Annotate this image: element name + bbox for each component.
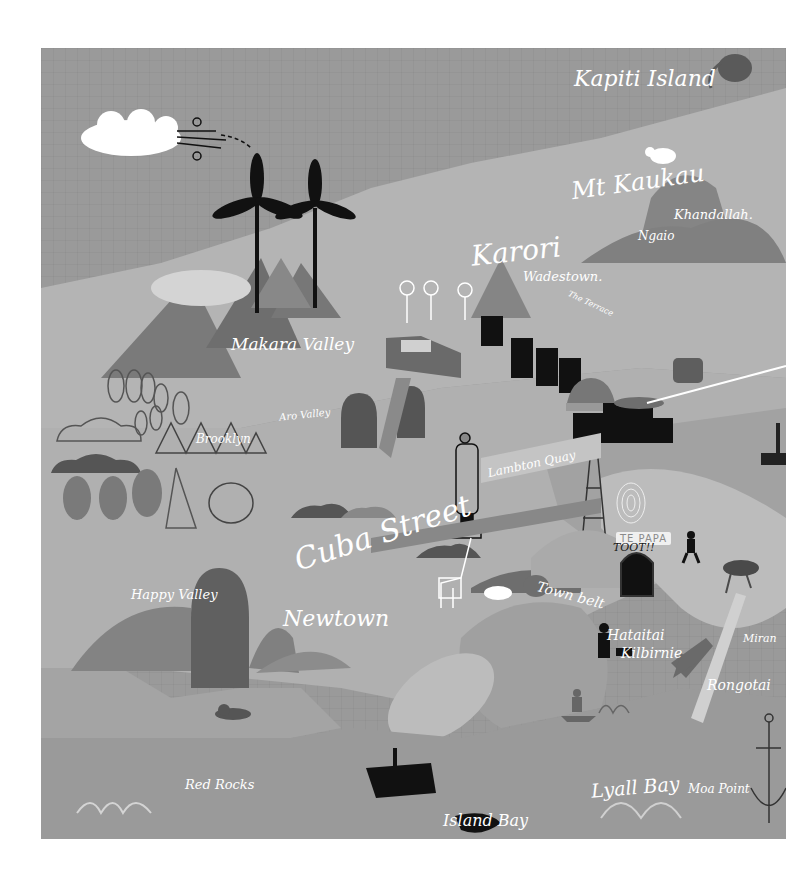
label-moa-point: Moa Point xyxy=(688,783,750,795)
kiwi-bird-icon xyxy=(710,54,752,88)
label-rongotai: Rongotai xyxy=(707,678,771,692)
label-island-bay: Island Bay xyxy=(443,813,528,829)
label-khandallah: Khandallah. xyxy=(674,208,753,221)
label-newtown: Newtown xyxy=(283,608,389,630)
label-hataitai: Hataitai xyxy=(607,628,664,642)
label-toot: TOOT!! xyxy=(613,542,655,553)
stadium-icon xyxy=(614,397,664,409)
wellington-map: Kapiti Island Mt Kaukau Khandallah. Ngai… xyxy=(41,48,786,839)
label-happy-valley: Happy Valley xyxy=(131,588,218,601)
label-red-rocks: Red Rocks xyxy=(185,778,254,791)
label-makara-valley: Makara Valley xyxy=(231,336,354,353)
label-brooklyn: Brooklyn xyxy=(196,433,251,445)
truck-icon xyxy=(673,358,703,383)
wind-gust-icon xyxy=(177,118,251,160)
label-kilbirnie: Kilbirnie xyxy=(621,646,682,660)
hill-newtown-tall xyxy=(191,568,249,688)
tunnel-icon xyxy=(621,553,653,596)
label-kapiti-island: Kapiti Island xyxy=(574,68,716,90)
label-ngaio: Ngaio xyxy=(638,230,674,242)
rhino-icon xyxy=(484,586,512,600)
cloud-small xyxy=(151,270,251,306)
label-miramar: Miran xyxy=(743,633,777,644)
label-wadestown: Wadestown. xyxy=(523,270,602,283)
